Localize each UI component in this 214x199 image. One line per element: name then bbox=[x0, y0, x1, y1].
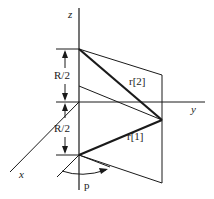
vector-r1-label: r[1] bbox=[127, 130, 144, 142]
angle-label: p bbox=[84, 179, 90, 191]
vector-r1 bbox=[79, 120, 162, 155]
dimension-label-upper: R/2 bbox=[54, 69, 70, 81]
z-axis-label: z bbox=[67, 8, 73, 20]
geometry-diagram: z y x R/2 R/2 r[2] r[1] p bbox=[0, 0, 214, 199]
dimension-label-lower: R/2 bbox=[54, 122, 70, 134]
arrowhead-icon bbox=[62, 93, 68, 101]
vector-r2 bbox=[79, 49, 162, 120]
projection-line bbox=[79, 86, 162, 120]
x-axis bbox=[10, 102, 79, 172]
vector-r2-label: r[2] bbox=[129, 75, 146, 87]
arc-arrowhead-icon bbox=[99, 168, 108, 174]
x-axis-label: x bbox=[18, 168, 24, 180]
plane-outline bbox=[79, 49, 162, 183]
arrowhead-icon bbox=[62, 146, 68, 154]
y-axis-label: y bbox=[190, 103, 196, 115]
arrowhead-icon bbox=[62, 103, 68, 111]
arrowhead-icon bbox=[62, 50, 68, 58]
lower-projection-line bbox=[79, 155, 110, 167]
angle-arc bbox=[62, 170, 106, 174]
